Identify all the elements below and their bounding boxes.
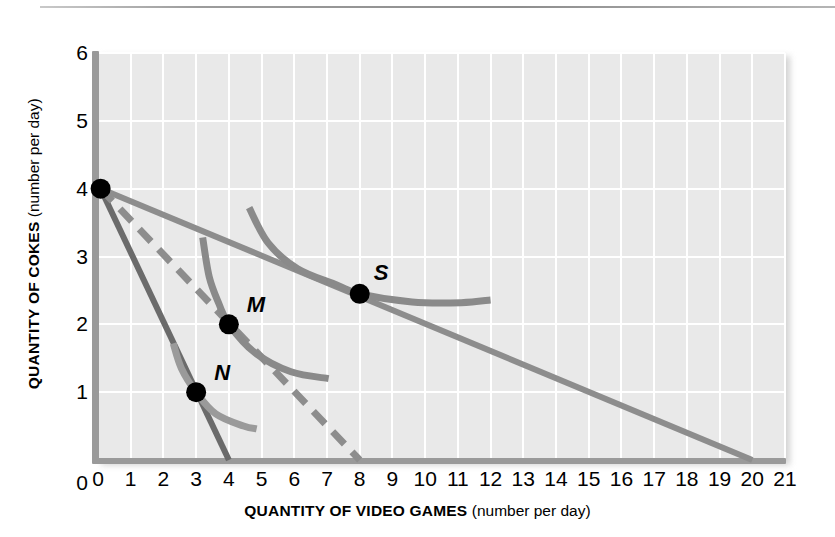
y-axis-title-paren: (number per day)	[25, 98, 42, 221]
x-axis-title: QUANTITY OF VIDEO GAMES (number per day)	[0, 503, 835, 519]
series-budget-line-steep	[101, 189, 229, 460]
series-indifference-curve-S	[249, 208, 490, 303]
chart-overlay	[0, 0, 835, 537]
series-budget-line-shallow	[101, 189, 753, 460]
x-axis-title-bold: QUANTITY OF VIDEO GAMES	[244, 502, 467, 519]
data-point-label-M: M	[247, 294, 265, 316]
data-point-M	[219, 314, 239, 334]
data-point-S	[350, 284, 370, 304]
data-point-label-S: S	[374, 262, 389, 284]
y-axis-title: QUANTITY OF COKES (number per day)	[26, 29, 42, 459]
x-axis-title-paren: (number per day)	[467, 502, 590, 519]
budget-intercept-point	[91, 179, 111, 199]
figure-container: 0123456 01234567891011121314151617181920…	[0, 0, 835, 537]
y-axis-title-bold: QUANTITY OF COKES	[25, 222, 42, 390]
data-point-label-N: N	[214, 362, 230, 384]
data-point-N	[186, 382, 206, 402]
series-indifference-curve-N	[173, 343, 256, 428]
